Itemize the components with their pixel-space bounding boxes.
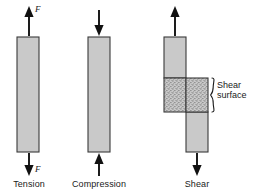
shear-lower-bar <box>186 112 208 152</box>
arrow-head-down <box>94 25 103 36</box>
tension-top-force-label: F <box>35 4 41 14</box>
tension-figure <box>17 6 39 176</box>
caption-compression: Compression <box>66 179 132 189</box>
arrow-head-up <box>24 6 33 17</box>
shear-surface-callout-line-1: Shear <box>217 80 241 90</box>
shear-top-arrow-up <box>170 6 179 36</box>
compression-top-arrow-down <box>94 10 103 36</box>
tension-bar <box>17 37 39 152</box>
tension-top-arrow-up <box>24 6 33 36</box>
shear-surface-brace <box>211 78 214 112</box>
caption-tension: Tension <box>0 179 58 189</box>
caption-shear: Shear <box>174 179 220 189</box>
shear-bottom-arrow-down <box>192 153 201 176</box>
arrow-head-up <box>170 6 179 17</box>
shear-surface-left-region <box>164 78 186 112</box>
arrow-head-down <box>24 165 33 176</box>
tension-bottom-arrow-down <box>24 153 33 176</box>
tension-bottom-force-label: F <box>35 164 41 174</box>
shear-figure <box>164 6 214 176</box>
arrow-head-down <box>192 165 201 176</box>
shear-surface-right-region <box>186 78 208 112</box>
compression-bottom-arrow-up <box>94 153 103 176</box>
arrow-head-up <box>94 153 103 164</box>
shear-surface-callout-line-2: surface <box>217 90 247 100</box>
shear-upper-bar <box>164 37 186 78</box>
compression-bar <box>88 37 110 152</box>
stress-types-diagram: F F Tension Compression Shear Shear surf… <box>0 0 255 194</box>
compression-figure <box>88 10 110 176</box>
